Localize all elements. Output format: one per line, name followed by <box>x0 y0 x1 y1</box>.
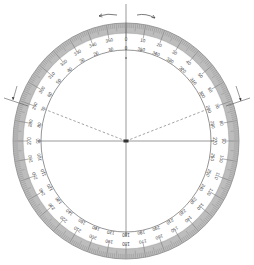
protractor-diagram: 0102030405060708090100110120130140150160… <box>0 0 254 265</box>
ccw-arrow-icon <box>99 14 117 16</box>
center-pivot-icon <box>124 140 129 143</box>
rotation-arrows <box>99 14 155 18</box>
outer-degree-label: 270 <box>27 137 32 145</box>
center-pivot <box>124 140 129 143</box>
outer-degree-label: 90 <box>221 138 226 144</box>
outer-degree-label: 180 <box>122 241 130 246</box>
